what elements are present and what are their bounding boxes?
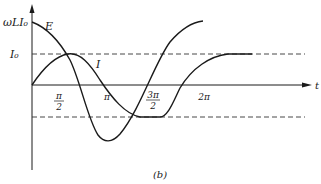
waveform-diagram: ωLI₀ I₀ E I π 2 π 3π 2 2π t (b) (0, 0, 321, 184)
tick-3pi-over-2-num: 3π (147, 90, 160, 100)
tick-3pi-over-2-den: 2 (149, 101, 156, 111)
y-label-omega-l-i0: ωLI₀ (3, 16, 29, 29)
tick-pi-over-2-num: π (55, 91, 63, 101)
tick-pi: π (103, 92, 111, 102)
figure-caption: (b) (153, 169, 167, 180)
y-axis-arrow-icon (30, 4, 35, 13)
t-axis-arrow-icon (302, 83, 312, 88)
t-axis-label: t (315, 80, 320, 91)
curve-label-i: I (95, 58, 101, 71)
tick-pi-over-2-den: 2 (55, 102, 62, 112)
y-label-i0: I₀ (9, 48, 19, 61)
tick-2pi: 2π (197, 92, 211, 102)
curve-e (32, 21, 203, 141)
curve-label-e: E (44, 20, 53, 33)
